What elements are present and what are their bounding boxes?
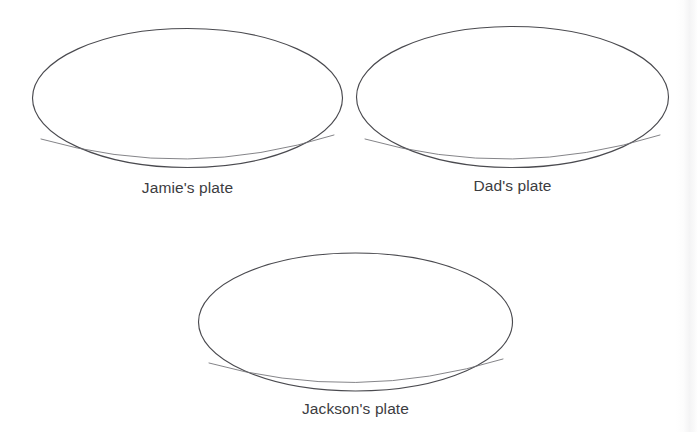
plate-label-dad: Dad's plate bbox=[355, 177, 670, 195]
page-edge-shadow bbox=[676, 0, 698, 432]
plate-ellipse-jamie bbox=[31, 27, 344, 172]
plate-group-jackson: Jackson's plate bbox=[197, 252, 514, 396]
plate-ellipse-jackson bbox=[197, 252, 514, 396]
plate-group-dad: Dad's plate bbox=[355, 25, 670, 172]
plate-label-jackson: Jackson's plate bbox=[197, 400, 514, 418]
worksheet-canvas: Jamie's plate Dad's plate Jackson's plat… bbox=[0, 0, 698, 432]
plate-outline bbox=[357, 27, 669, 168]
plate-label-jamie: Jamie's plate bbox=[31, 179, 344, 197]
plate-ellipse-dad bbox=[355, 25, 670, 172]
plate-group-jamie: Jamie's plate bbox=[31, 27, 344, 172]
plate-outline bbox=[199, 253, 513, 391]
plate-outline bbox=[33, 29, 343, 168]
